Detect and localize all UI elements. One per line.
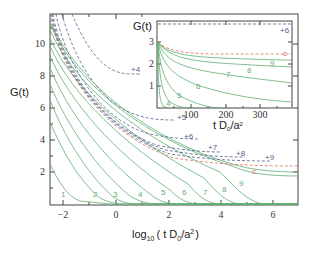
inset-x-tick-100: 100 [184, 109, 199, 120]
x-axis-title: log10( t D0/a2) [132, 228, 199, 242]
y-tick-10: 10 [35, 38, 45, 49]
label-9: 9 [239, 179, 244, 188]
label-6: 6 [182, 188, 187, 197]
inset-y-axis-title: G(t) [133, 20, 152, 32]
inset-label-6: 6 [196, 82, 201, 91]
label-7: 7 [203, 188, 208, 197]
inset-x-axis-title: t D0/a2 [213, 119, 244, 132]
label-5: 5 [161, 188, 166, 197]
y-tick-2: 2 [40, 166, 45, 177]
label-2: 2 [93, 190, 98, 199]
y-tick-6: 6 [40, 102, 45, 113]
inset-x-tick-300: 300 [253, 109, 268, 120]
chart: 10 8 6 4 2 −2 0 2 4 6 G(t) log10( t D0/a… [0, 0, 311, 253]
label-plus7: +7 [208, 143, 218, 152]
inset-label-4: 4 [166, 99, 171, 108]
label-4: 4 [138, 190, 143, 199]
inset-label-c: c [283, 49, 287, 58]
inset-label-8: 8 [247, 66, 252, 75]
y-tick-8: 8 [40, 70, 45, 81]
inset-y-tick-1: 1 [149, 80, 154, 91]
inset-label-5: 5 [177, 91, 182, 100]
inset-y-tick-2: 2 [149, 58, 154, 69]
curve-2 [50, 122, 300, 204]
label-8: 8 [222, 185, 227, 194]
inset-label-7: 7 [226, 70, 231, 79]
label-3: 3 [113, 190, 118, 199]
label-c: c [252, 167, 256, 176]
x-tick-0: 0 [114, 209, 119, 220]
label-plus6: +6 [184, 132, 194, 141]
x-tick-neg2: −2 [58, 209, 69, 220]
label-plus4: +4 [131, 65, 141, 74]
inset-label-plus6: +6 [280, 26, 290, 35]
label-1: 1 [61, 190, 66, 199]
label-plus9: +9 [265, 153, 275, 162]
dashed-plus4 [72, 14, 140, 74]
x-tick-4: 4 [219, 209, 224, 220]
label-plus8: +8 [236, 149, 246, 158]
inset-y-tick-3: 3 [149, 36, 154, 47]
x-tick-6: 6 [271, 209, 276, 220]
x-tick-2: 2 [167, 209, 172, 220]
y-axis-title: G(t) [10, 86, 29, 98]
inset-label-9: 9 [270, 59, 275, 68]
y-tick-4: 4 [40, 134, 45, 145]
